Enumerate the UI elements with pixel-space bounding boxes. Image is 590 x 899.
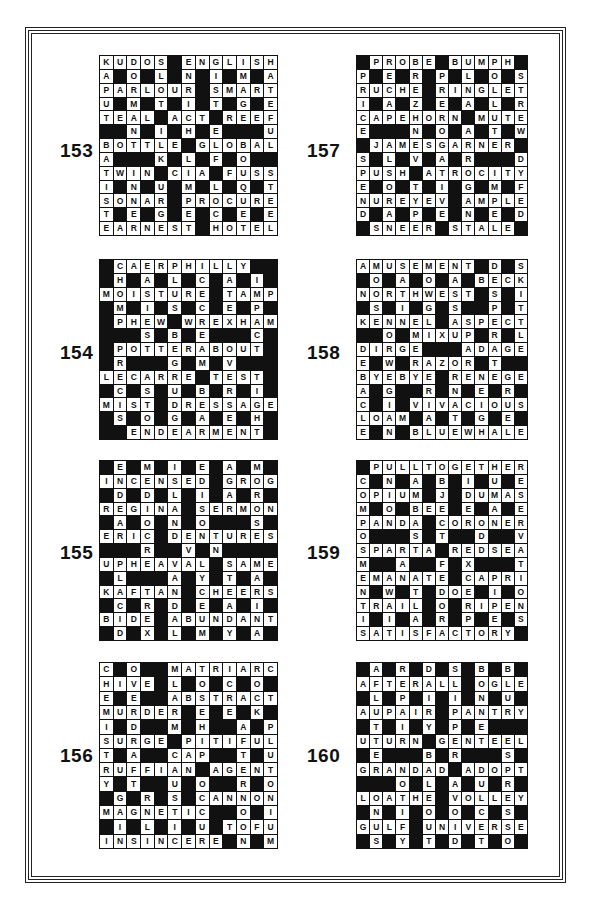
letter-cell: E: [223, 426, 236, 439]
black-square: [396, 530, 408, 543]
letter-cell: P: [462, 329, 474, 342]
letter-cell: I: [370, 343, 382, 356]
letter-cell: R: [449, 544, 461, 557]
letter-cell: X: [436, 329, 448, 342]
letter-cell: L: [155, 70, 168, 83]
black-square: [423, 84, 435, 97]
letter-cell: C: [383, 84, 395, 97]
letter-cell: U: [168, 385, 181, 398]
letter-cell: Y: [515, 167, 527, 180]
letter-cell: S: [196, 503, 209, 516]
letter-cell: M: [357, 558, 369, 571]
letter-cell: A: [196, 167, 209, 180]
letter-cell: E: [515, 111, 527, 124]
letter-cell: E: [155, 706, 168, 719]
letter-cell: N: [127, 181, 140, 194]
letter-cell: U: [168, 288, 181, 301]
letter-cell: A: [114, 84, 127, 97]
black-square: [141, 749, 154, 762]
letter-cell: U: [114, 735, 127, 748]
letter-cell: A: [168, 111, 181, 124]
black-square: [502, 302, 514, 315]
black-square: [449, 194, 461, 207]
letter-cell: B: [436, 475, 448, 488]
letter-cell: E: [396, 222, 408, 235]
letter-cell: L: [223, 56, 236, 69]
letter-cell: S: [357, 627, 369, 640]
letter-cell: A: [449, 777, 461, 790]
letter-cell: N: [383, 315, 395, 328]
letter-cell: I: [489, 167, 501, 180]
letter-cell: S: [168, 222, 181, 235]
letter-cell: N: [396, 572, 408, 585]
black-square: [489, 692, 501, 705]
black-square: [196, 763, 209, 776]
black-square: [410, 385, 422, 398]
letter-cell: P: [370, 489, 382, 502]
letter-cell: T: [383, 627, 395, 640]
letter-cell: I: [141, 835, 154, 848]
letter-cell: M: [370, 572, 382, 585]
letter-cell: Y: [396, 835, 408, 848]
letter-cell: A: [155, 586, 168, 599]
letter-cell: U: [357, 735, 369, 748]
letter-cell: E: [237, 763, 250, 776]
letter-cell: D: [155, 426, 168, 439]
black-square: [251, 777, 264, 790]
letter-cell: N: [383, 475, 395, 488]
letter-cell: T: [100, 208, 113, 221]
letter-cell: E: [462, 461, 474, 474]
letter-cell: L: [264, 139, 277, 152]
black-square: [264, 677, 277, 690]
letter-cell: G: [357, 763, 369, 776]
letter-cell: O: [127, 343, 140, 356]
letter-cell: R: [383, 288, 395, 301]
black-square: [396, 586, 408, 599]
letter-cell: P: [196, 749, 209, 762]
letter-cell: I: [396, 720, 408, 733]
letter-cell: S: [489, 288, 501, 301]
letter-cell: T: [515, 315, 527, 328]
letter-cell: T: [223, 820, 236, 833]
black-square: [489, 530, 501, 543]
letter-cell: O: [251, 792, 264, 805]
letter-cell: B: [100, 139, 113, 152]
letter-cell: C: [196, 586, 209, 599]
black-square: [251, 260, 264, 273]
letter-cell: A: [410, 572, 422, 585]
black-square: [449, 125, 461, 138]
letter-cell: U: [489, 111, 501, 124]
letter-cell: S: [423, 139, 435, 152]
letter-cell: N: [251, 763, 264, 776]
black-square: [475, 288, 487, 301]
letter-cell: P: [182, 194, 195, 207]
letter-cell: C: [196, 302, 209, 315]
black-square: [210, 706, 223, 719]
letter-cell: L: [436, 677, 448, 690]
black-square: [114, 663, 127, 676]
letter-cell: E: [502, 735, 514, 748]
letter-cell: V: [168, 558, 181, 571]
letter-cell: B: [182, 692, 195, 705]
black-square: [196, 125, 209, 138]
black-square: [182, 385, 195, 398]
letter-cell: X: [223, 315, 236, 328]
letter-cell: H: [489, 461, 501, 474]
black-square: [264, 426, 277, 439]
letter-cell: B: [410, 56, 422, 69]
black-square: [436, 692, 448, 705]
black-square: [182, 139, 195, 152]
black-square: [155, 385, 168, 398]
black-square: [141, 720, 154, 733]
letter-cell: A: [396, 558, 408, 571]
letter-cell: A: [237, 613, 250, 626]
letter-cell: O: [196, 777, 209, 790]
letter-cell: A: [436, 153, 448, 166]
letter-cell: O: [383, 329, 395, 342]
black-square: [502, 329, 514, 342]
letter-cell: O: [155, 84, 168, 97]
puzzle-number-158: 158: [307, 342, 340, 364]
black-square: [515, 720, 527, 733]
black-square: [210, 806, 223, 819]
letter-cell: T: [502, 167, 514, 180]
